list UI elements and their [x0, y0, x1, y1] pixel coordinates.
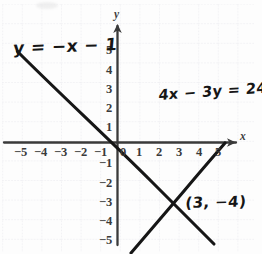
- y-tick-2: 2: [106, 102, 112, 115]
- x-tick-5: 5: [215, 146, 221, 159]
- x-tick--4: −4: [34, 146, 47, 159]
- origin-label: 0: [120, 146, 126, 159]
- y-tick--1: −1: [99, 157, 112, 170]
- x-tick--5: −5: [14, 146, 27, 159]
- y-tick-1: 1: [106, 121, 112, 134]
- graph-figure: y x 0 −5 −4 −3 −2 −1 1 2 3 4 5 5 4 3 2 1…: [0, 0, 262, 254]
- intersection-point-label: (3, −4): [185, 194, 247, 211]
- y-tick--2: −2: [99, 177, 112, 190]
- x-tick--2: −2: [74, 146, 87, 159]
- y-tick-3: 3: [106, 83, 112, 96]
- y-tick--3: −3: [99, 196, 112, 209]
- x-tick--3: −3: [54, 146, 67, 159]
- y-tick-4: 4: [106, 64, 112, 77]
- line1-equation-label: y = −x − 1: [13, 36, 119, 57]
- x-axis-label: x: [240, 131, 246, 143]
- y-tick--4: −4: [99, 215, 112, 228]
- x-tick-1: 1: [136, 146, 142, 159]
- y-tick--5: −5: [99, 234, 112, 247]
- x-tick-2: 2: [156, 146, 162, 159]
- x-tick-3: 3: [176, 146, 182, 159]
- x-tick-4: 4: [196, 146, 202, 159]
- y-axis-label: y: [114, 9, 119, 21]
